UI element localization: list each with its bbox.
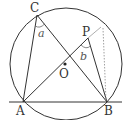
angle-label-a: a (38, 27, 45, 40)
angle-label-b: b (80, 50, 87, 63)
segment-cb (37, 15, 107, 102)
segment-ac (23, 15, 37, 102)
segment-pb (88, 38, 107, 102)
center-dot (63, 62, 66, 65)
label-o: O (59, 67, 69, 81)
label-a: A (15, 104, 25, 118)
label-p: P (82, 25, 90, 39)
label-b: B (104, 104, 113, 118)
angle-arc-b (81, 45, 91, 48)
geometry-diagram: C A B P O a b (0, 0, 131, 120)
label-c: C (30, 1, 39, 15)
segment-ap (23, 38, 88, 102)
